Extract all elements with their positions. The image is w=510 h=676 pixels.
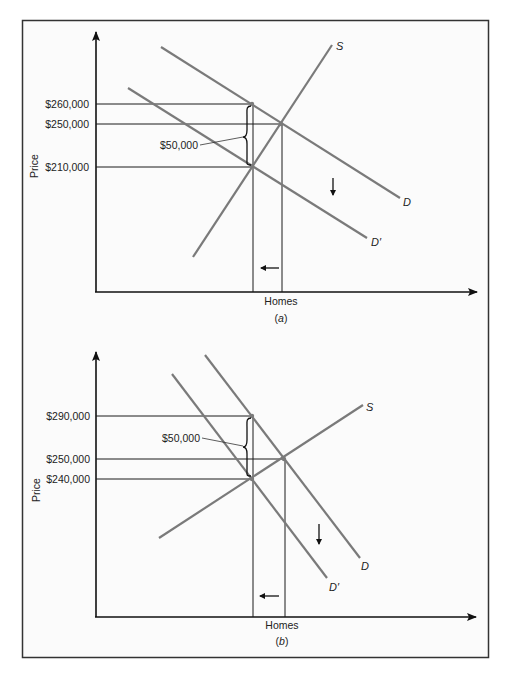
tick-b-1: $250,000 — [46, 453, 90, 465]
bracket-label-b: $50,000 — [162, 432, 200, 444]
label-d-b: D — [361, 560, 369, 572]
point-new-eq-b — [250, 477, 254, 481]
y-axis-label-a: Price — [28, 154, 40, 178]
tick-a-1: $250,000 — [45, 118, 89, 130]
y-axis-label-b: Price — [30, 478, 42, 502]
tick-b-2: $240,000 — [46, 473, 90, 485]
caption-b: (b) — [276, 635, 289, 647]
tick-b-0: $290,000 — [46, 410, 90, 422]
label-s-a: S — [336, 40, 344, 52]
caption-letter-b: b — [279, 635, 285, 647]
figure: $260,000 $250,000 $210,000 $50,000 Price… — [0, 0, 510, 676]
x-axis-label-b: Homes — [265, 619, 298, 631]
caption-letter-a: a — [278, 312, 284, 324]
bracket-label-a: $50,000 — [160, 139, 198, 151]
point-eq-b — [282, 457, 286, 461]
label-s-b: S — [366, 401, 374, 413]
tick-a-2: $210,000 — [45, 161, 89, 173]
point-eq-a — [279, 122, 283, 126]
x-axis-label-a: Homes — [264, 295, 297, 307]
label-d-a: D — [403, 196, 411, 208]
tick-a-0: $260,000 — [45, 98, 89, 110]
figure-frame — [23, 21, 489, 658]
caption-a: (a) — [275, 312, 288, 324]
label-dprime-a: D′ — [371, 236, 382, 248]
label-dprime-b: D′ — [329, 581, 340, 593]
